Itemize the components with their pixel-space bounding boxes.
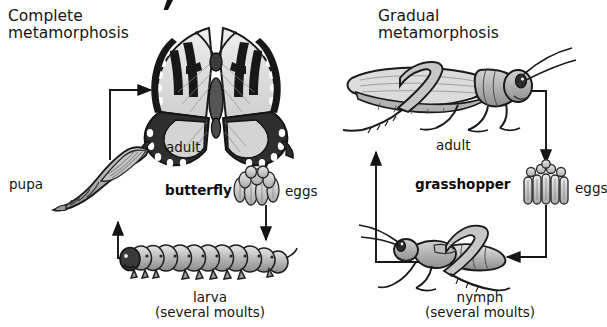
caterpillar-icon [120, 245, 297, 279]
clipped-title-glyph [164, 0, 174, 10]
butterfly-icon [139, 28, 293, 167]
panel-heading-gradual: Gradualmetamorphosis [378, 8, 499, 43]
panel-heading-complete: Completemetamorphosis [8, 8, 129, 43]
egg-pod-icon [524, 160, 568, 204]
label-larva: larva(several moults) [125, 290, 295, 320]
chrysalis-icon [54, 147, 148, 211]
grasshopper-nymph-icon [359, 225, 510, 292]
label-nymph: nymph(several moults) [395, 290, 565, 320]
label-adult-grasshopper: adult [436, 138, 470, 153]
label-butterfly: butterfly [165, 183, 232, 198]
label-eggs-butterfly: eggs [285, 184, 317, 199]
label-nymph-main: nymph [457, 289, 504, 305]
egg-cluster-icon [234, 166, 279, 205]
label-adult-butterfly: adult [166, 140, 200, 155]
eggs-to-nymph-arrow [507, 205, 546, 257]
label-larva-main: larva [193, 289, 227, 305]
panel-heading-complete-line1: Complete [8, 7, 83, 25]
panel-heading-complete-line2: metamorphosis [8, 24, 129, 42]
label-pupa: pupa [9, 177, 43, 192]
panel-heading-gradual-line2: metamorphosis [378, 24, 499, 42]
label-eggs-grasshopper: eggs [575, 181, 607, 196]
label-larva-sub: (several moults) [155, 304, 265, 320]
label-grasshopper: grasshopper [415, 177, 511, 192]
panel-heading-gradual-line1: Gradual [378, 7, 439, 25]
label-nymph-sub: (several moults) [425, 304, 535, 320]
